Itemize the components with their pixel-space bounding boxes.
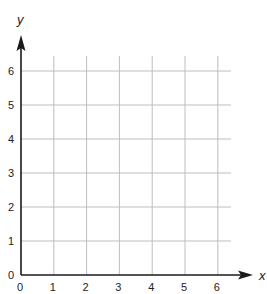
y-tick-label: 1 [8,235,14,247]
x-tick-label: 1 [50,281,56,293]
coordinate-grid: 0123456 0123456 x y [0,0,267,294]
y-tick-label: 5 [8,99,14,111]
x-tick-label: 4 [148,281,154,293]
y-axis-label: y [16,12,25,27]
x-tick-label: 6 [214,281,220,293]
y-tick-label: 0 [8,269,14,281]
y-tick-label: 6 [8,65,14,77]
y-tick-label: 4 [8,133,14,145]
x-tick-label: 3 [115,281,121,293]
grid-lines [21,56,231,275]
x-tick-label: 0 [17,281,23,293]
x-axis-label: x [258,268,266,283]
y-tick-label: 3 [8,167,14,179]
x-tick-labels: 0123456 [17,281,220,293]
y-tick-label: 2 [8,201,14,213]
y-tick-labels: 0123456 [8,65,14,281]
x-tick-label: 5 [181,281,187,293]
x-tick-label: 2 [83,281,89,293]
